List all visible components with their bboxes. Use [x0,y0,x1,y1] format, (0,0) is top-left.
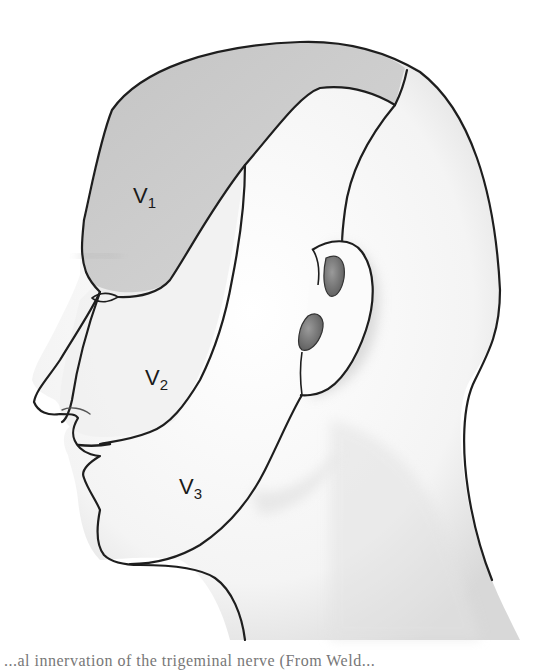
figure-caption: ...al innervation of the trigeminal nerv… [4,652,544,672]
trigeminal-dermatome-illustration: V1 V2 V3 [0,0,544,650]
